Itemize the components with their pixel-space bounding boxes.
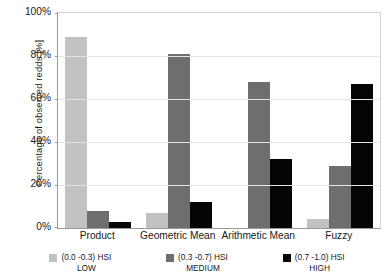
y-axis-tick-label: 100% (25, 7, 51, 17)
legend-item[interactable]: (0.3 -0.7) HSIMEDIUM (139, 252, 256, 274)
y-axis-tick-label: 20% (31, 179, 51, 189)
y-axis-tick-labels: 0%20%40%60%80%100% (0, 0, 54, 279)
gridline (58, 99, 380, 100)
y-axis-tick-label: 0% (36, 222, 51, 232)
legend-swatch (49, 254, 57, 262)
y-axis-tick-label: 80% (31, 50, 51, 60)
legend-range-label: (0.3 -0.7) HSI (178, 252, 228, 263)
bar-medium[interactable] (329, 166, 351, 228)
bar-high[interactable] (351, 84, 373, 228)
legend-class-label: MEDIUM (178, 263, 228, 274)
bar-low[interactable] (65, 37, 87, 228)
bar-high[interactable] (270, 159, 292, 228)
bar-medium[interactable] (87, 211, 109, 228)
y-axis-tickmark (55, 185, 58, 186)
y-axis-tickmark (55, 227, 58, 228)
legend-label: (0.0 -0.3) HSILOW (61, 252, 111, 274)
bar-group (219, 13, 300, 228)
legend-range-label: (0.0 -0.3) HSI (61, 252, 111, 263)
x-axis-category-label: Arithmetic Mean (218, 230, 299, 246)
legend-label: (0.7 -1.0) HSIHIGH (295, 252, 345, 274)
legend-class-label: HIGH (295, 263, 345, 274)
y-axis-tickmark (55, 13, 58, 14)
legend-item[interactable]: (0.7 -1.0) HSIHIGH (255, 252, 372, 274)
legend-label: (0.3 -0.7) HSIMEDIUM (178, 252, 228, 274)
x-axis-category-label: Fuzzy (299, 230, 380, 246)
legend-item[interactable]: (0.0 -0.3) HSILOW (22, 252, 139, 274)
y-axis-tick-label: 60% (31, 93, 51, 103)
gridline (58, 56, 380, 57)
x-axis-category-labels: ProductGeometric MeanArithmetic MeanFuzz… (57, 230, 379, 246)
bar-group (300, 13, 381, 228)
bar-high[interactable] (109, 222, 131, 228)
y-axis-tickmark (55, 56, 58, 57)
bar-group (139, 13, 220, 228)
legend: (0.0 -0.3) HSILOW(0.3 -0.7) HSIMEDIUM(0.… (22, 252, 372, 274)
y-axis-tickmark (55, 99, 58, 100)
bar-high[interactable] (190, 202, 212, 228)
gridline (58, 185, 380, 186)
y-axis-tickmark (55, 142, 58, 143)
y-axis-tick-label: 40% (31, 136, 51, 146)
legend-range-label: (0.7 -1.0) HSI (295, 252, 345, 263)
legend-swatch (166, 254, 174, 262)
x-axis-category-label: Geometric Mean (138, 230, 219, 246)
legend-class-label: LOW (61, 263, 111, 274)
bar-medium[interactable] (168, 54, 190, 228)
bar-group (58, 13, 139, 228)
bar-chart: Percentage of observed redds [%] 0%20%40… (0, 0, 387, 279)
plot-area (57, 12, 381, 229)
bar-groups (58, 13, 380, 228)
bar-low[interactable] (146, 213, 168, 228)
x-axis-category-label: Product (57, 230, 138, 246)
legend-swatch (283, 254, 291, 262)
bar-medium[interactable] (248, 82, 270, 228)
gridline (58, 142, 380, 143)
bar-low[interactable] (307, 219, 329, 228)
